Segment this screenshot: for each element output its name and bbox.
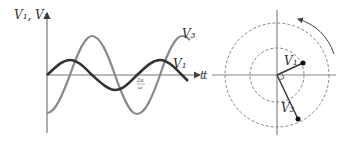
v1-phasor-label: V₁: [284, 54, 297, 68]
phasor-diagram: V₁, V₃ t V₃ V₁ 2π ω t V₁ V₃: [0, 0, 351, 143]
v3-phasor-label: V₃: [281, 101, 295, 115]
v3-curve-label: V₃: [182, 27, 196, 41]
rotation-arrow-icon: [298, 19, 334, 54]
tick-label-num: 2π: [136, 77, 144, 83]
tick-label-den: ω: [138, 84, 142, 90]
v1-curve-label: V₁: [173, 57, 186, 71]
waveform-plot: V₁, V₃ t V₃ V₁ 2π ω: [14, 8, 208, 133]
y-axis-label: V₁, V₃: [14, 8, 49, 22]
phasor-axis-label: t: [200, 69, 205, 82]
phasor-plot: t V₁ V₃: [200, 10, 336, 135]
